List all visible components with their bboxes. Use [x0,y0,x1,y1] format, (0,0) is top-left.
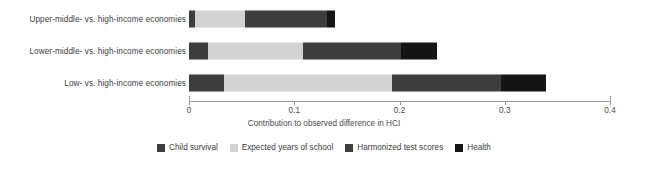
bar-segment [303,43,401,60]
bar-segment [501,75,546,92]
chart-row: Upper-middle- vs. high-income economies [0,4,648,34]
bar-segment [245,11,327,28]
x-axis-tick [189,101,190,105]
bar-segment [189,75,224,92]
bar-segment [189,43,208,60]
bar-segment [195,11,244,28]
x-axis-tick-label: 0.3 [499,106,510,115]
x-axis-tick [610,101,611,105]
bar-segment [401,43,438,60]
x-axis-tick-label: 0.4 [604,106,615,115]
chart-row: Low- vs. high-income economies [0,68,648,98]
legend-swatch-icon [157,144,165,152]
chart-row: Lower-middle- vs. high-income economies [0,36,648,66]
legend-label: Child survival [169,143,218,152]
bar-segment [392,75,500,92]
legend-item[interactable]: Harmonized test scores [345,143,443,152]
legend-item[interactable]: Child survival [157,143,218,152]
legend-swatch-icon [230,144,238,152]
stacked-bar [189,43,437,60]
legend-swatch-icon [455,144,463,152]
x-axis-tick-label: 0.2 [394,106,405,115]
legend-label: Health [467,143,491,152]
legend-label: Harmonized test scores [357,143,443,152]
x-axis-tick-label: 0 [187,106,192,115]
stacked-bar [189,11,335,28]
category-label: Low- vs. high-income economies [64,79,186,88]
x-axis-tick [505,101,506,105]
bar-segment [208,43,303,60]
plot-area: Upper-middle- vs. high-income economies … [0,0,648,100]
stacked-bar [189,75,546,92]
stacked-bar-chart: Upper-middle- vs. high-income economies … [0,0,648,169]
x-axis-tick [400,101,401,105]
category-label: Lower-middle- vs. high-income economies [29,47,186,56]
x-axis-tick [294,101,295,105]
bar-segment [327,11,335,28]
legend-item[interactable]: Health [455,143,491,152]
legend-label: Expected years of school [242,143,333,152]
x-axis-title: Contribution to observed difference in H… [0,119,648,128]
x-axis-tick-label: 0.1 [289,106,300,115]
category-label: Upper-middle- vs. high-income economies [29,15,186,24]
chart-legend: Child survivalExpected years of schoolHa… [0,143,648,152]
legend-item[interactable]: Expected years of school [230,143,333,152]
bar-segment [224,75,392,92]
legend-swatch-icon [345,144,353,152]
